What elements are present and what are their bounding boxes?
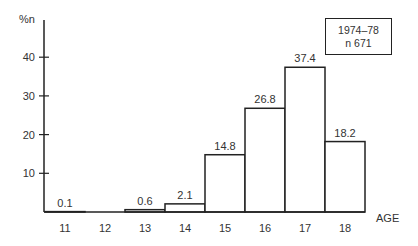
x-tick-label: 16	[259, 222, 271, 234]
x-tick-label: 14	[179, 222, 191, 234]
x-tick-label: 13	[139, 222, 151, 234]
bar-value-label: 26.8	[254, 93, 275, 105]
bar-value-label: 14.8	[214, 140, 235, 152]
legend-period: 1974–78	[326, 24, 391, 37]
bar-age-15	[205, 155, 245, 212]
legend-sample-size: n 671	[326, 37, 391, 50]
bar-age-16	[245, 108, 285, 212]
bar-age-17	[285, 67, 325, 212]
bar-value-label: 0.6	[137, 195, 152, 207]
y-tick-label: 20	[23, 129, 35, 141]
bar-value-label: 2.1	[177, 189, 192, 201]
x-axis-label: AGE	[376, 212, 399, 224]
bar-value-label: 0.1	[57, 197, 72, 209]
legend-box: 1974–78 n 671	[325, 18, 392, 55]
y-tick-label: 10	[23, 167, 35, 179]
x-tick-label: 12	[99, 222, 111, 234]
x-tick-label: 15	[219, 222, 231, 234]
y-tick-label: 40	[23, 51, 35, 63]
x-tick-label: 11	[59, 222, 70, 234]
x-tick-label: 17	[299, 222, 311, 234]
bar-age-18	[325, 142, 365, 212]
bar-value-label: 37.4	[294, 52, 315, 64]
x-tick-label: 18	[339, 222, 351, 234]
y-axis-label: %n	[19, 13, 35, 25]
bar-value-label: 18.2	[334, 127, 355, 139]
bar-age-14	[165, 204, 205, 212]
y-tick-label: 30	[23, 90, 35, 102]
